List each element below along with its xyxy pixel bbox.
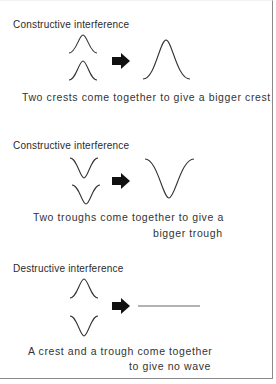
right-arrow-icon bbox=[112, 298, 130, 314]
trough-wave-icon bbox=[145, 159, 194, 198]
right-arrow-icon bbox=[112, 53, 130, 69]
crest-wave-icon bbox=[143, 40, 190, 79]
right-arrow-icon bbox=[112, 173, 130, 189]
trough-wave-icon bbox=[72, 185, 100, 204]
crest-wave-icon bbox=[69, 35, 97, 53]
trough-wave-icon bbox=[70, 158, 98, 178]
diagram-artwork bbox=[0, 0, 276, 384]
crest-wave-icon bbox=[69, 61, 97, 80]
trough-wave-icon bbox=[70, 316, 98, 336]
crest-wave-icon bbox=[70, 279, 98, 298]
